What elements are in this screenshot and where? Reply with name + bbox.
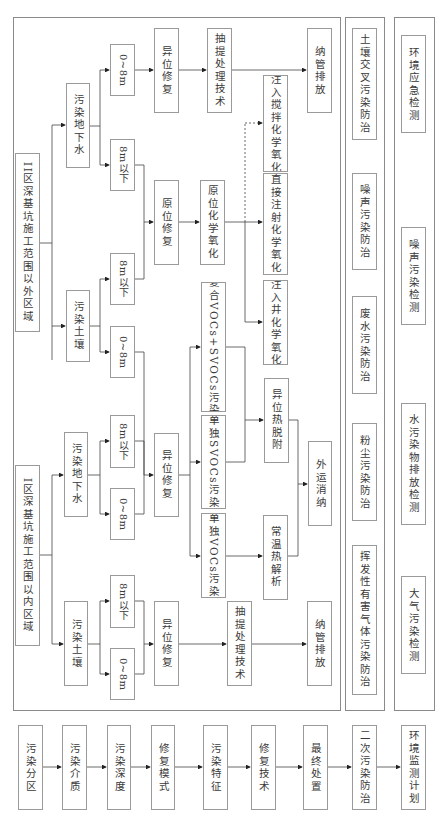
air-monitoring: 大气污染检测	[401, 576, 426, 674]
voc-svoc-compound: 复合VOCs+SVOCs污染	[201, 282, 226, 412]
zone2-discharge: 纳管排放	[307, 28, 332, 113]
zone1-gw-deep: 8m以下	[110, 415, 135, 468]
step-monitoring-plan: 环境监测计划	[401, 725, 426, 810]
wastewater-prevention: 废水污染防治	[352, 296, 377, 394]
zone1-groundwater: 污染地下水	[64, 432, 88, 517]
zone1-soil-exsitu: 异位修复	[154, 601, 179, 686]
zone2-direct-inject: 直接注射化学氧化	[263, 173, 288, 275]
step-remediation-tech: 修复技术	[251, 725, 276, 810]
noise-prevention: 噪声污染防治	[352, 173, 377, 270]
step-final-disposal: 最终处置	[303, 725, 328, 810]
zone1-title: I区深基坑施工范围以内区域	[15, 465, 40, 646]
dust-prevention: 粉尘污染防治	[352, 423, 377, 521]
soil-cross-contamination: 土壤交叉污染防治	[352, 28, 377, 140]
zone1-gw-exsitu: 异位修复	[154, 433, 179, 517]
step-pollution-features: 污染特征	[203, 725, 228, 810]
zone1-soil: 污染土壤	[64, 601, 88, 686]
zone2-groundwater: 污染地下水	[66, 83, 90, 168]
zone1-pump-treat: 抽提处理技术	[227, 601, 252, 686]
zone2-exsitu: 异位修复	[154, 28, 179, 113]
voc-only: 单独VOCs污染	[201, 513, 226, 598]
noise-monitoring: 噪声污染检测	[401, 227, 426, 325]
thermal-desorption: 异位热脱附	[264, 378, 289, 463]
zone1-soil-shallow: 0~8m	[110, 648, 135, 700]
zone2-title: II区深基坑施工范围以外区域	[15, 153, 40, 332]
svoc-only: 单独SVOCs污染	[201, 415, 226, 509]
zone2-insitu: 原位修复	[154, 180, 179, 265]
zone2-pump-treat: 抽提处理技术	[207, 28, 232, 113]
step-pollution-medium: 污染介质	[62, 725, 87, 810]
zone2-well-inject: 注入井化学氧化	[263, 280, 288, 365]
zone2-soil: 污染土壤	[66, 290, 90, 362]
voc-gas-prevention: 挥发性有害气体污染防治	[352, 545, 377, 695]
step-pollution-zoning: 污染分区	[18, 725, 43, 810]
offsite-disposal: 外运消纳	[308, 441, 332, 526]
zone2-soil-deep: 8m以下	[110, 253, 135, 305]
step-secondary-pollution: 二次污染防治	[352, 725, 377, 810]
zone1-discharge: 纳管排放	[307, 601, 332, 686]
zone2-gw-shallow: 0~8m	[110, 44, 135, 96]
zone1-gw-shallow: 0~8m	[110, 488, 135, 540]
emergency-monitoring: 环境应急检测	[401, 35, 426, 133]
step-pollution-depth: 污染深度	[107, 725, 131, 810]
step-remediation-mode: 修复模式	[151, 725, 175, 810]
ambient-desorption: 常温热解析	[263, 515, 288, 600]
remediation-flowchart: 污染分区 污染介质 污染深度 修复模式 污染特征 修复技术 最终处置 二次污染防…	[0, 0, 445, 816]
zone2-isco: 原位化学氧化	[200, 180, 225, 265]
zone2-soil-shallow: 0~8m	[110, 326, 135, 378]
zone2-mix-inject: 注入搅拌化学氧化	[263, 75, 288, 172]
zone2-gw-deep: 8m以下	[110, 139, 135, 191]
zone1-soil-deep: 8m以下	[110, 575, 135, 628]
water-discharge-monitoring: 水污染物排放检测	[401, 403, 426, 525]
